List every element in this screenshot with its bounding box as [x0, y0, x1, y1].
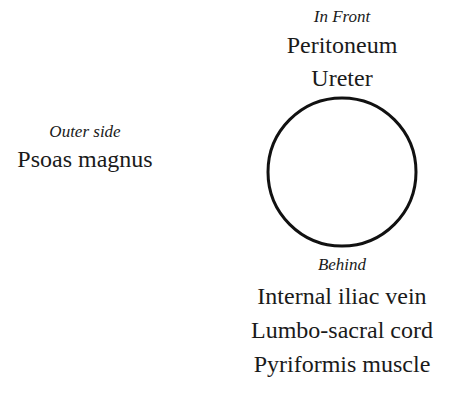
- behind-item-pyriformis-muscle: Pyriformis muscle: [254, 352, 431, 376]
- behind-item-internal-iliac-vein: Internal iliac vein: [257, 284, 426, 308]
- behind-item-lumbo-sacral-cord: Lumbo-sacral cord: [251, 318, 433, 342]
- behind-heading: Behind: [318, 256, 366, 273]
